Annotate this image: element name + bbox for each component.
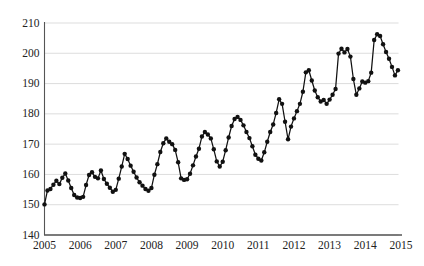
- x-tick-label: 2006: [69, 239, 92, 251]
- data-point-marker: [336, 51, 340, 55]
- data-point-marker: [283, 120, 287, 124]
- y-tick-label: 200: [22, 47, 40, 59]
- x-tick-label: 2010: [211, 239, 234, 251]
- data-point-marker: [292, 116, 296, 120]
- data-point-marker: [200, 134, 204, 138]
- data-point-marker: [60, 176, 64, 180]
- x-tick-label: 2015: [389, 239, 412, 251]
- data-point-marker: [342, 50, 346, 54]
- data-point-marker: [387, 57, 391, 61]
- data-point-marker: [298, 102, 302, 106]
- data-point-marker: [333, 87, 337, 91]
- data-point-marker: [289, 124, 293, 128]
- data-point-marker: [108, 186, 112, 190]
- data-point-marker: [194, 154, 198, 158]
- data-point-marker: [381, 42, 385, 46]
- data-point-marker: [212, 147, 216, 151]
- data-point-marker: [280, 102, 284, 106]
- data-point-marker: [164, 136, 168, 140]
- data-point-marker: [253, 153, 257, 157]
- data-point-marker: [66, 178, 70, 182]
- data-point-marker: [105, 182, 109, 186]
- data-point-marker: [313, 88, 317, 92]
- data-point-marker: [390, 65, 394, 69]
- line-chart: 1401501601701801902002102005200620072008…: [0, 0, 424, 266]
- data-point-marker: [137, 180, 141, 184]
- data-point-marker: [81, 195, 85, 199]
- data-point-marker: [259, 158, 263, 162]
- data-point-marker: [206, 132, 210, 136]
- data-point-marker: [152, 173, 156, 177]
- data-point-marker: [277, 97, 281, 101]
- data-point-marker: [247, 136, 251, 140]
- data-point-marker: [173, 148, 177, 152]
- data-point-marker: [286, 137, 290, 141]
- data-point-marker: [221, 160, 225, 164]
- data-point-marker: [330, 93, 334, 97]
- y-tick-label: 160: [22, 168, 40, 180]
- data-point-marker: [155, 162, 159, 166]
- data-point-marker: [99, 168, 103, 172]
- data-point-marker: [226, 135, 230, 139]
- data-point-marker: [125, 157, 129, 161]
- data-point-marker: [51, 183, 55, 187]
- data-point-marker: [122, 152, 126, 156]
- data-point-marker: [295, 109, 299, 113]
- data-point-marker: [69, 186, 73, 190]
- data-point-marker: [321, 98, 325, 102]
- data-point-marker: [215, 159, 219, 163]
- data-point-marker: [241, 123, 245, 127]
- data-point-marker: [134, 175, 138, 179]
- data-point-marker: [327, 97, 331, 101]
- data-point-marker: [324, 102, 328, 106]
- data-point-marker: [265, 140, 269, 144]
- x-tick-label: 2009: [176, 239, 199, 251]
- data-point-marker: [191, 163, 195, 167]
- data-point-marker: [131, 170, 135, 174]
- data-point-marker: [128, 163, 132, 167]
- data-point-marker: [54, 179, 58, 183]
- data-point-marker: [274, 111, 278, 115]
- data-point-marker: [120, 164, 124, 168]
- data-point-marker: [250, 144, 254, 148]
- y-tick-label: 190: [22, 77, 40, 89]
- data-point-marker: [197, 146, 201, 150]
- data-point-marker: [176, 160, 180, 164]
- data-point-marker: [229, 124, 233, 128]
- x-tick-label: 2014: [354, 239, 377, 251]
- data-point-marker: [393, 73, 397, 77]
- data-point-marker: [316, 95, 320, 99]
- data-point-marker: [372, 38, 376, 42]
- data-point-marker: [117, 176, 121, 180]
- data-point-marker: [185, 177, 189, 181]
- data-point-marker: [268, 130, 272, 134]
- data-point-marker: [396, 68, 400, 72]
- data-point-marker: [63, 171, 67, 175]
- data-point-marker: [301, 90, 305, 94]
- chart-figure: 1401501601701801902002102005200620072008…: [0, 0, 424, 266]
- data-point-marker: [339, 47, 343, 51]
- data-point-marker: [357, 86, 361, 90]
- data-point-marker: [351, 77, 355, 81]
- y-tick-label: 170: [22, 138, 40, 150]
- data-point-marker: [345, 47, 349, 51]
- data-point-marker: [209, 136, 213, 140]
- y-tick-label: 180: [22, 107, 40, 119]
- data-point-marker: [188, 172, 192, 176]
- data-point-marker: [271, 122, 275, 126]
- data-point-marker: [57, 182, 61, 186]
- x-tick-label: 2005: [33, 239, 56, 251]
- x-tick-label: 2011: [247, 239, 270, 251]
- data-point-marker: [354, 93, 358, 97]
- data-point-marker: [114, 188, 118, 192]
- x-tick-label: 2013: [318, 239, 341, 251]
- data-point-marker: [170, 142, 174, 146]
- data-point-marker: [307, 68, 311, 72]
- data-point-marker: [369, 70, 373, 74]
- data-point-marker: [149, 186, 153, 190]
- data-point-marker: [90, 170, 94, 174]
- data-point-marker: [140, 183, 144, 187]
- data-point-marker: [48, 187, 52, 191]
- data-point-marker: [244, 130, 248, 134]
- data-point-marker: [158, 150, 162, 154]
